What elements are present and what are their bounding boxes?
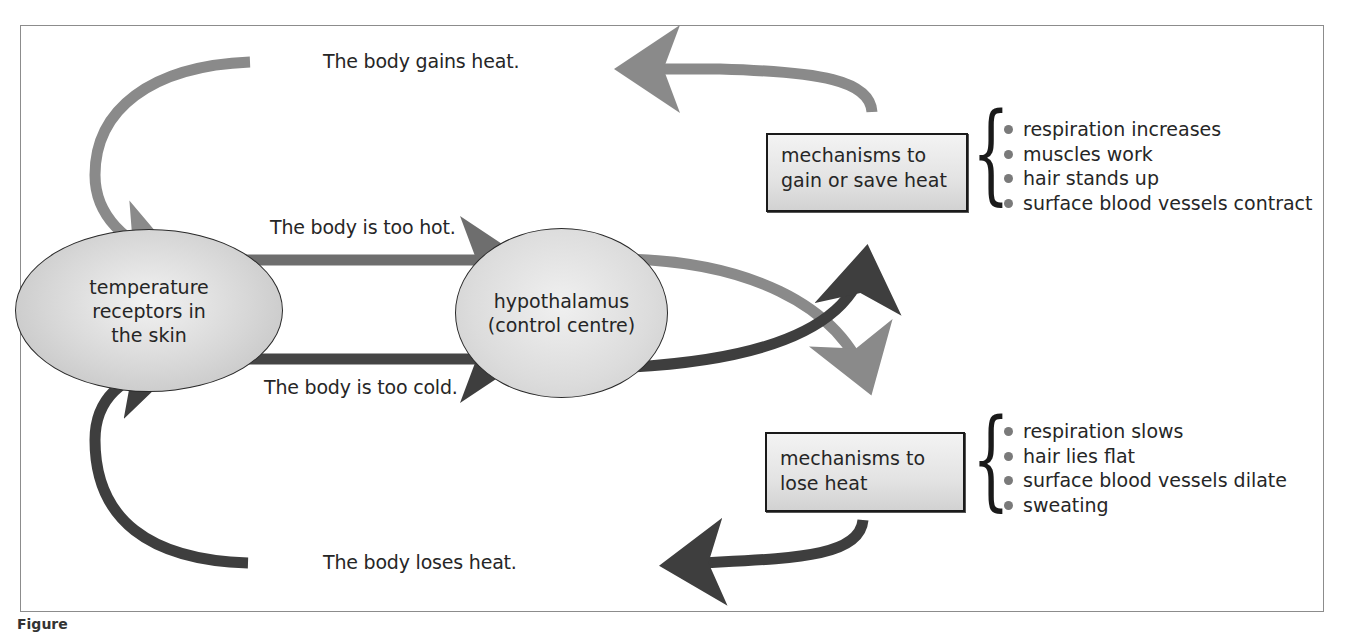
gain-box-line-1: mechanisms to: [781, 143, 956, 168]
gain-mechanism-item: hair stands up: [1003, 166, 1313, 191]
bullet-icon: [1004, 199, 1013, 208]
hypothalamus-line-2: (control centre): [488, 313, 635, 337]
receptors-line-1: temperature: [89, 275, 208, 299]
bullet-icon: [1004, 174, 1013, 183]
hypothalamus-line-1: hypothalamus: [488, 289, 635, 313]
bullet-icon: [1004, 125, 1013, 134]
arrow-gains-heat-to-receptors: [95, 62, 250, 258]
label-too-hot: The body is too hot.: [270, 216, 456, 238]
arrow-lose-box-to-bottom: [670, 520, 863, 565]
label-gains-heat: The body gains heat.: [323, 50, 519, 72]
figure-caption: Figure: [17, 616, 68, 632]
receptors-line-3: the skin: [89, 323, 208, 347]
bullet-icon: [1004, 501, 1013, 510]
lose-mechanism-item: respiration slows: [1003, 419, 1287, 444]
node-gain-heat-mechanisms: mechanisms to gain or save heat: [766, 133, 968, 212]
receptors-line-2: receptors in: [89, 299, 208, 323]
gain-mechanism-item: surface blood vessels contract: [1003, 191, 1313, 216]
label-too-cold: The body is too cold.: [264, 376, 458, 398]
gain-mechanisms-list: respiration increases muscles work hair …: [1003, 117, 1313, 215]
node-lose-heat-mechanisms: mechanisms to lose heat: [765, 432, 965, 512]
gain-mechanism-item: muscles work: [1003, 142, 1313, 167]
bullet-icon: [1004, 476, 1013, 485]
arrow-loses-heat-to-receptors: [95, 366, 248, 563]
arrow-gain-box-to-top: [625, 69, 872, 112]
node-temperature-receptors: temperature receptors in the skin: [15, 229, 283, 392]
bullet-icon: [1004, 452, 1013, 461]
node-hypothalamus: hypothalamus (control centre): [455, 228, 668, 398]
lose-mechanism-item: surface blood vessels dilate: [1003, 468, 1287, 493]
lose-box-line-2: lose heat: [780, 471, 953, 496]
gain-mechanism-item: respiration increases: [1003, 117, 1313, 142]
label-loses-heat: The body loses heat.: [323, 551, 517, 573]
lose-mechanisms-list: respiration slows hair lies flat surface…: [1003, 419, 1287, 517]
lose-box-line-1: mechanisms to: [780, 446, 953, 471]
lose-mechanism-item: sweating: [1003, 493, 1287, 518]
bullet-icon: [1004, 150, 1013, 159]
lose-mechanism-item: hair lies flat: [1003, 444, 1287, 469]
bullet-icon: [1004, 427, 1013, 436]
gain-box-line-2: gain or save heat: [781, 168, 956, 193]
